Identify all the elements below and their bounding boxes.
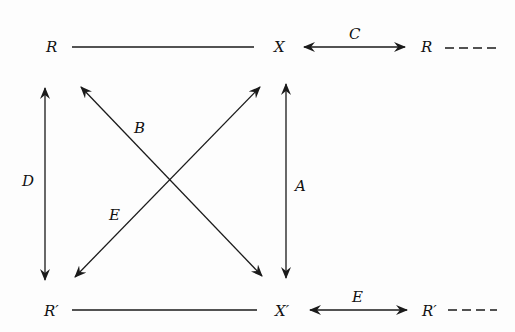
label-e-bottom: E bbox=[351, 288, 363, 306]
arrow-b bbox=[81, 87, 262, 276]
node-r-top: R bbox=[45, 38, 57, 56]
label-d: D bbox=[21, 172, 34, 190]
diagram-canvas: R X C R R′ X′ E R′ D A B E bbox=[0, 0, 515, 332]
label-b: B bbox=[133, 119, 145, 137]
label-a: A bbox=[293, 177, 306, 195]
node-r-prime-bottom-right: R′ bbox=[421, 302, 437, 320]
label-e-diag: E bbox=[108, 206, 120, 224]
node-r-top-right: R bbox=[420, 38, 432, 56]
node-r-prime-bottom: R′ bbox=[43, 302, 59, 320]
arrow-e-diag bbox=[75, 87, 260, 277]
node-x-prime: X′ bbox=[274, 302, 290, 320]
node-x-top: X bbox=[273, 38, 286, 56]
label-c: C bbox=[349, 25, 361, 43]
